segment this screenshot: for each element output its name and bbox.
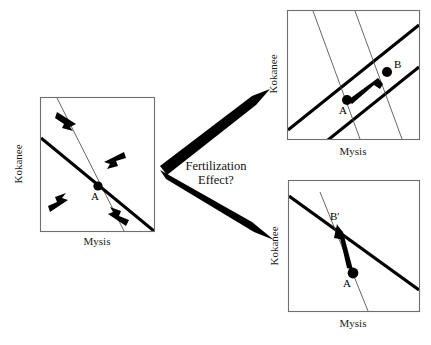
bottom-right-panel-frame: [289, 181, 420, 312]
branch-label-line2: Effect?: [198, 173, 234, 187]
left-panel-ylabel: Kokanee: [12, 144, 24, 183]
left-panel-xlabel: Mysis: [84, 235, 111, 247]
top-right-ylabel: Kokanee: [267, 54, 279, 93]
bottom-right-ylabel: Kokanee: [268, 226, 280, 265]
figure-canvas: A Kokanee Mysis Fertilization Effect?: [0, 0, 431, 345]
bottom-right-xlabel: Mysis: [340, 317, 367, 329]
left-panel: A Kokanee Mysis: [12, 98, 155, 248]
branch-label-line1: Fertilization: [185, 159, 247, 173]
bottom-right-point-b-label: B': [330, 210, 339, 222]
top-right-point-a-label: A: [339, 104, 347, 116]
top-right-panel: A B Kokanee Mysis: [267, 11, 420, 173]
top-right-point-b: [382, 67, 392, 77]
bottom-right-point-a-label: A: [343, 277, 351, 289]
bottom-right-panel: A B' Kokanee Mysis: [268, 181, 420, 330]
left-panel-point-a-label: A: [91, 190, 99, 202]
top-right-point-b-label: B: [394, 58, 401, 70]
top-right-xlabel: Mysis: [340, 145, 367, 157]
diagram-svg: A Kokanee Mysis Fertilization Effect?: [0, 0, 431, 345]
